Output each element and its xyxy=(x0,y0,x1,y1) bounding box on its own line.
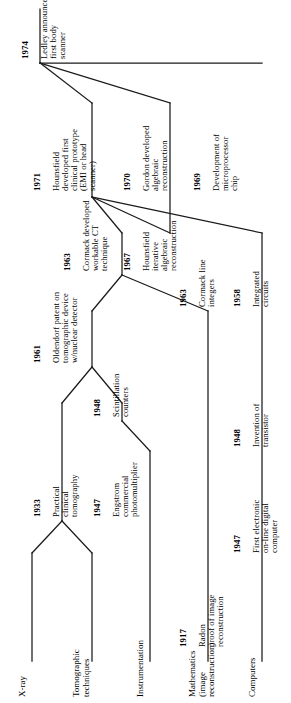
event-year: 1947 xyxy=(233,457,242,553)
event-text: Ledley announced first body scanner xyxy=(40,0,67,59)
event-year: 1917 xyxy=(179,551,188,647)
track-label-x-ray: X-ray xyxy=(18,676,28,697)
event-1947-first-electronic-computer: 1947 First electronic on-line digital co… xyxy=(224,457,288,553)
event-year: 1933 xyxy=(33,425,42,517)
line-tomographic-to-1933 xyxy=(62,521,92,553)
event-text: First electronic on-line digital compute… xyxy=(252,457,279,553)
track-label-instrumentation: Instrumentation xyxy=(136,640,146,697)
event-text: Practical clinical tomography xyxy=(52,425,79,517)
event-1948-invention-of-transistor: 1948 Invention of transistor xyxy=(224,359,279,447)
event-year: 1947 xyxy=(93,417,102,517)
event-1917-radon-proof: 1917 Radon proof of image reconstruction xyxy=(170,551,234,647)
event-1948-scintillation-counters: 1948 Scintillation counters xyxy=(84,329,139,417)
event-text: Development of microprocessor chip xyxy=(212,91,239,191)
event-1970-gordon-algebraic-reconstruction: 1970 Gordon developed algebraic reconstr… xyxy=(114,87,178,191)
track-label-mathematics: Mathematics (image reconstruction) xyxy=(188,643,217,697)
event-text: Integrated circuits xyxy=(252,219,270,307)
event-year: 1958 xyxy=(233,219,242,307)
line-1961-to-1967 xyxy=(92,275,122,311)
event-text: Scintillation counters xyxy=(112,329,130,417)
track-label-tomographic-techniques: Tomographic techniques xyxy=(72,649,91,697)
event-text: Invention of transistor xyxy=(252,359,270,447)
event-year: 1948 xyxy=(233,359,242,447)
event-year: 1974 xyxy=(21,0,30,59)
event-text: Engstrom commercial photomultiplier xyxy=(112,417,139,517)
event-text: Hounsfield developed first clinical prot… xyxy=(52,81,98,191)
event-text: Cormack line integers xyxy=(198,215,216,307)
event-1933-practical-clinical-tomography: 1933 Practical clinical tomography xyxy=(24,425,88,517)
event-year: 1961 xyxy=(33,253,42,363)
line-xray-to-1933 xyxy=(32,521,62,553)
event-1969-microprocessor-chip: 1969 Development of microprocessor chip xyxy=(184,91,248,191)
event-year: 1948 xyxy=(93,329,102,417)
timeline-diagram: X-ray Tomographic techniques Instrumenta… xyxy=(0,0,291,703)
event-1974-ledley-body-scanner: 1974 Ledley announced first body scanner xyxy=(12,0,76,59)
event-1971-hounsfield-clinical-prototype: 1971 Hounsfield developed first clinical… xyxy=(24,81,106,191)
event-year: 1970 xyxy=(123,87,132,191)
event-text: Radon proof of image reconstruction xyxy=(198,551,225,647)
track-label-computers: Computers xyxy=(248,658,258,698)
event-year: 1971 xyxy=(33,81,42,191)
event-text: Gordon developed algebraic reconstructio… xyxy=(142,87,169,191)
event-1958-integrated-circuits: 1958 Integrated circuits xyxy=(224,219,279,307)
event-1947-engstrom-photomultiplier: 1947 Engstrom commercial photomultiplier xyxy=(84,417,148,517)
event-year: 1969 xyxy=(193,91,202,191)
